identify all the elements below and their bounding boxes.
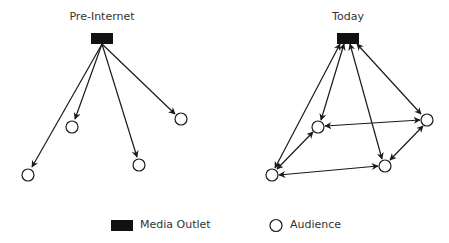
legend-audience-swatch [270,220,282,232]
connection-arrow [390,126,423,160]
legend-outlet-label: Media Outlet [140,218,211,231]
connection-arrow [75,44,102,119]
network-diagram [0,0,449,243]
audience-node [266,169,278,181]
connection-arrow [321,44,344,120]
connection-arrow [279,166,378,175]
panel-title-today: Today [332,10,364,23]
media-outlet-node [91,33,113,44]
audience-node [133,159,145,171]
media-outlet-node [337,33,359,44]
audience-node [379,160,391,172]
connection-arrow [275,44,340,168]
connection-arrow [32,44,102,167]
audience-node [22,169,34,181]
audience-node [66,121,78,133]
pre-internet-panel [22,33,187,181]
audience-node [312,121,324,133]
audience-node [175,113,187,125]
connection-arrow [277,132,313,169]
today-panel [266,33,433,181]
legend-audience-label: Audience [290,218,341,231]
audience-node [421,114,433,126]
legend-outlet-swatch [111,220,133,231]
connection-arrow [350,44,382,159]
panel-title-pre-internet: Pre-Internet [69,10,134,23]
